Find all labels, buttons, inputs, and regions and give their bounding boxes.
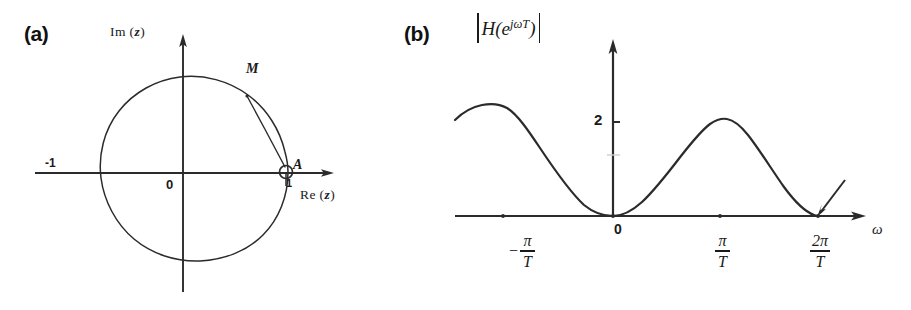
- y-tick-label-2: 2: [594, 112, 602, 127]
- omega-axis: [455, 212, 866, 221]
- fraction-numerator: π: [716, 232, 728, 249]
- transfer-tail: ): [529, 18, 535, 39]
- omega-axis-label: ω: [872, 222, 883, 237]
- magnitude-response-drawing: [0, 0, 911, 310]
- fraction-numerator: 2π: [810, 232, 830, 249]
- fraction-denominator: T: [814, 253, 827, 270]
- origin-label-b: 0: [614, 222, 622, 236]
- minus-sign: −: [509, 242, 518, 260]
- zero-pointer-arrow: [817, 180, 845, 217]
- transfer-function-expression: H(ejωT): [482, 19, 536, 38]
- transfer-head: H(e: [482, 18, 510, 39]
- magnitude-curve: [455, 104, 818, 216]
- fraction-denominator: T: [716, 253, 729, 270]
- abs-bar-left-icon: [477, 13, 479, 43]
- x-tick-label-neg-pi-over-t: − π T: [509, 232, 535, 270]
- magnitude-title: H(ejωT): [474, 14, 543, 42]
- x-tick-label-two-pi-over-t: 2π T: [810, 232, 830, 270]
- fraction-bar: [715, 250, 730, 251]
- transfer-exponent: jωT: [510, 16, 529, 30]
- fraction-bar: [520, 250, 535, 251]
- fraction-stack: π T: [520, 232, 535, 270]
- figure-root: (a): [0, 0, 911, 310]
- magnitude-axis: [609, 39, 618, 216]
- fraction-stack: 2π T: [810, 232, 830, 270]
- abs-bar-right-icon: [539, 13, 541, 43]
- x-tick-label-pi-over-t: π T: [715, 232, 730, 270]
- fraction-numerator: π: [522, 232, 534, 249]
- fraction-stack: π T: [715, 232, 730, 270]
- fraction-bar: [810, 250, 830, 251]
- fraction-denominator: T: [521, 253, 534, 270]
